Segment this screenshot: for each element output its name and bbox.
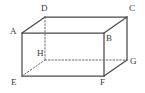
vertex-label-F: F — [100, 78, 105, 87]
vertex-label-B: B — [106, 34, 112, 43]
edge-B-C — [104, 17, 127, 33]
hidden-edge-group — [22, 17, 127, 76]
cuboid-figure: A B C D E F G H — [0, 0, 145, 93]
vertex-label-A: A — [10, 27, 17, 36]
edge-F-G — [104, 60, 127, 76]
edge-A-D — [22, 17, 45, 33]
vertex-label-C: C — [129, 4, 135, 13]
vertex-label-D: D — [41, 4, 48, 13]
vertex-label-E: E — [11, 78, 17, 87]
vertex-label-G: G — [130, 57, 137, 66]
edge-E-H — [22, 60, 45, 76]
cuboid-svg — [0, 0, 145, 93]
vertex-label-H: H — [37, 49, 44, 58]
solid-edge-group — [22, 17, 127, 76]
